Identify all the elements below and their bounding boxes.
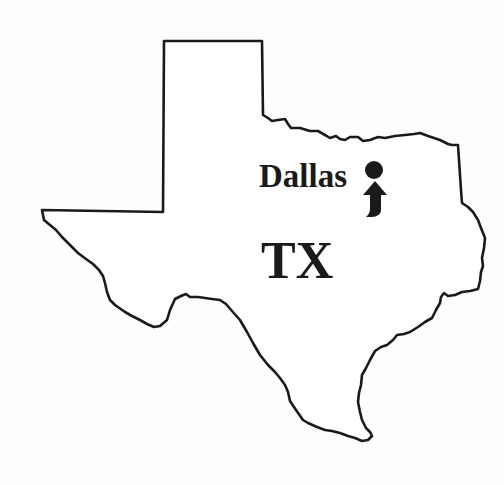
state-label-tx: TX (261, 232, 333, 289)
map-svg: Dallas TX (0, 0, 504, 485)
dot-icon (365, 161, 383, 179)
city-label-dallas: Dallas (259, 158, 347, 194)
texas-map: Dallas TX (0, 0, 504, 485)
